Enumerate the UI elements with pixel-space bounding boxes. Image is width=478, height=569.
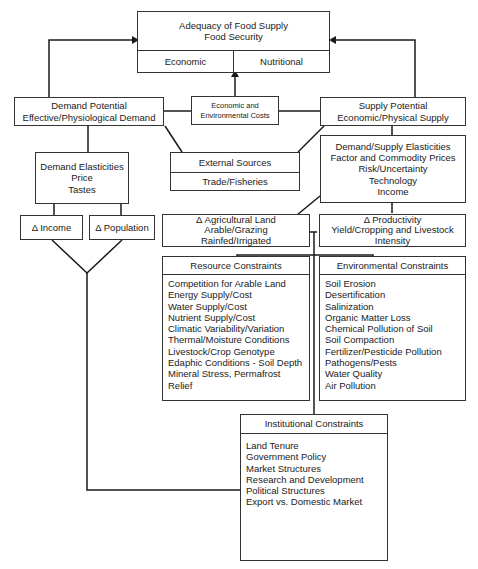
demand-potential-line1: Demand Potential [51,100,127,112]
resource-item: Competition for Arable Land [168,278,304,289]
institutional-item: Political Structures [246,485,382,496]
institutional-item: Market Structures [246,463,382,474]
demand-elasticities-box: Demand Elasticities Price Tastes [35,152,129,204]
environmental-item: Pathogens/Pests [325,357,460,368]
population-box: Δ Population [89,215,155,240]
institutional-item: Research and Development [246,474,382,485]
environmental-item: Water Quality [325,368,460,379]
environmental-constraints-header: Environmental Constraints [320,257,465,275]
costs-line2: Environmental Costs [200,111,269,121]
resource-constraints-box: Resource Constraints Competition for Ara… [162,256,310,401]
productivity-line3: Intensity [375,236,410,247]
resource-item: Edaphic Conditions - Soil Depth [168,357,304,368]
institutional-constraints-box: Institutional Constraints Land Tenure Go… [240,414,388,561]
resource-item: Climatic Variability/Variation [168,323,304,334]
income-box: Δ Income [20,215,83,240]
institutional-item: Government Policy [246,451,382,462]
supply-potential-line1: Supply Potential [359,100,428,112]
environmental-item: Salinization [325,301,460,312]
demand-elasticities-line1: Demand Elasticities [40,161,123,173]
supply-factors-box: Demand/Supply Elasticities Factor and Co… [320,135,466,203]
institutional-constraints-header: Institutional Constraints [241,415,387,434]
external-sources-sub: Trade/Fisheries [171,173,299,191]
external-sources-header: External Sources [171,153,299,173]
supply-potential-line2: Economic/Physical Supply [337,112,448,124]
environmental-item: Organic Matter Loss [325,312,460,323]
demand-elasticities-line2: Price [71,172,93,184]
resource-item: Nutrient Supply/Cost [168,312,304,323]
costs-box: Economic and Environmental Costs [191,96,279,125]
demand-potential-box: Demand Potential Effective/Physiological… [14,97,164,126]
supply-factor-item: Demand/Supply Elasticities [335,141,450,152]
supply-factor-item: Income [377,186,408,197]
agricultural-land-box: Δ Agricultural Land Arable/Grazing Rainf… [162,214,310,247]
food-security-title-line1: Adequacy of Food Supply [179,20,288,32]
income-label: Δ Income [21,216,82,239]
agri-land-line3: Rainfed/Irrigated [201,236,271,247]
supply-factor-item: Factor and Commodity Prices [330,152,455,163]
resource-constraints-header: Resource Constraints [163,257,309,275]
supply-factor-item: Risk/Uncertainty [358,163,427,174]
population-label: Δ Population [90,216,154,239]
institutional-item: Land Tenure [246,440,382,451]
environmental-item: Soil Compaction [325,334,460,345]
environmental-constraints-box: Environmental Constraints Soil Erosion D… [319,256,466,401]
economic-cell: Economic [138,51,234,73]
supply-potential-box: Supply Potential Economic/Physical Suppl… [320,97,466,126]
resource-item: Water Supply/Cost [168,301,304,312]
resource-item: Livestock/Crop Genotype [168,346,304,357]
resource-item: Mineral Stress, Permafrost [168,368,304,379]
resource-item: Relief [168,380,304,391]
environmental-item: Soil Erosion [325,278,460,289]
resource-item: Thermal/Moisture Conditions [168,334,304,345]
environmental-item: Desertification [325,289,460,300]
food-security-title-line2: Food Security [204,31,263,43]
environmental-item: Air Pollution [325,380,460,391]
resource-item: Energy Supply/Cost [168,289,304,300]
institutional-item: Export vs. Domestic Market [246,496,382,507]
nutritional-cell: Nutritional [234,51,329,73]
external-sources-box: External Sources Trade/Fisheries [170,152,300,191]
demand-potential-line2: Effective/Physiological Demand [23,112,156,124]
productivity-box: Δ Productivity Yield/Cropping and Livest… [319,214,466,247]
costs-line1: Economic and [211,101,259,111]
demand-elasticities-line3: Tastes [68,184,95,196]
food-security-box: Adequacy of Food Supply Food Security Ec… [137,11,330,73]
environmental-item: Fertilizer/Pesticide Pollution [325,346,460,357]
environmental-item: Chemical Pollution of Soil [325,323,460,334]
supply-factor-item: Technology [369,175,417,186]
